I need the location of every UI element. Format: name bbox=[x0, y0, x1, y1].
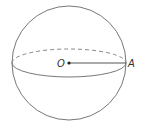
center-point bbox=[67, 61, 70, 64]
label-center: O bbox=[57, 58, 65, 69]
equator-front bbox=[12, 63, 126, 77]
label-point: A bbox=[127, 58, 135, 69]
equator-back-dashed bbox=[12, 49, 126, 63]
sphere-diagram: O A bbox=[0, 0, 146, 137]
